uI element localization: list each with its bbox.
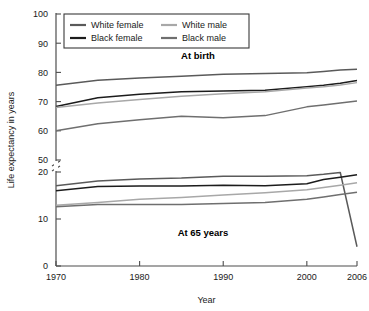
y-tick-label: 0 — [43, 261, 48, 271]
panel-label-at-birth: At birth — [181, 50, 215, 61]
series-line-black-male-panel-2 — [56, 192, 357, 207]
y-axis-title: Life expectancy in years — [6, 91, 16, 188]
x-tick-label: 1990 — [213, 272, 233, 282]
x-axis-title: Year — [197, 295, 215, 305]
series-line-black-male-panel-1 — [56, 101, 357, 131]
y-tick-label: 20 — [38, 167, 48, 177]
y-tick-label: 80 — [38, 68, 48, 78]
x-tick-label: 1970 — [46, 272, 66, 282]
y-tick-label: 50 — [38, 155, 48, 165]
legend-label-black-male: Black male — [182, 33, 226, 43]
chart-canvas: 01020506070809010019701980199020002006Ye… — [0, 0, 369, 311]
legend-label-white-female: White female — [91, 20, 144, 30]
y-tick-label: 60 — [38, 126, 48, 136]
life-expectancy-chart: 01020506070809010019701980199020002006Ye… — [0, 0, 369, 311]
y-tick-label: 90 — [38, 39, 48, 49]
legend-label-black-female: Black female — [91, 33, 143, 43]
y-tick-label: 70 — [38, 97, 48, 107]
x-tick-label: 2000 — [297, 272, 317, 282]
axis-break-mask — [54, 161, 58, 171]
y-tick-label: 10 — [38, 214, 48, 224]
series-line-white-female-panel-1 — [56, 69, 357, 85]
panel-label-at-65-years: At 65 years — [178, 227, 229, 238]
legend-label-white-male: White male — [182, 20, 227, 30]
y-tick-label: 100 — [33, 9, 48, 19]
x-tick-label: 1980 — [130, 272, 150, 282]
x-tick-label: 2006 — [347, 272, 367, 282]
